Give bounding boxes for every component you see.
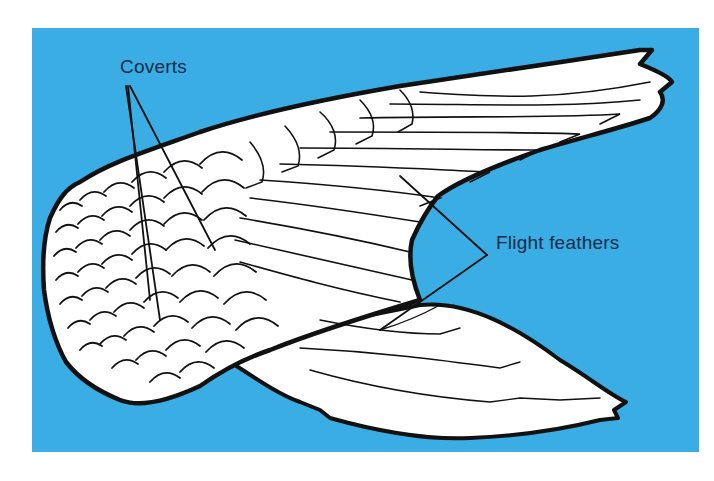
label-coverts: Coverts: [120, 56, 187, 78]
label-flight-feathers: Flight feathers: [496, 232, 619, 254]
